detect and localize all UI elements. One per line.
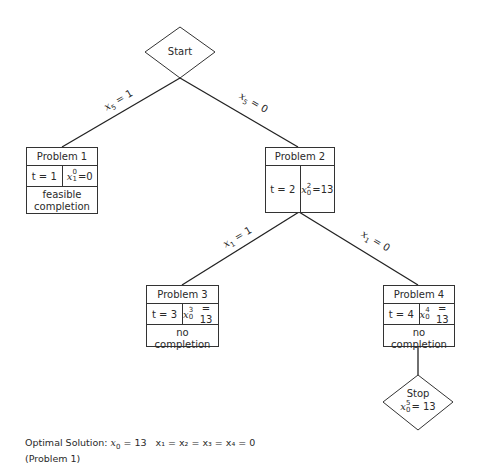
problem-title: Problem 1 — [27, 148, 97, 166]
edge-start-problem2 — [180, 78, 298, 147]
iteration-value: t = 4 — [384, 304, 419, 324]
iteration-value: t = 3 — [147, 304, 182, 324]
completion-status: feasible completion — [27, 187, 97, 213]
start-label: Start — [155, 46, 205, 57]
start-text: Start — [168, 46, 192, 57]
optimal-solution-source: (Problem 1) — [25, 453, 255, 465]
problem-title: Problem 4 — [384, 286, 454, 304]
problem-4-node: Problem 4 t = 4 x40= 13 no completion — [383, 285, 455, 347]
optimal-solution-caption: Optimal Solution: x0 = 13 x₁ = x₂ = x₃ =… — [25, 437, 255, 465]
completion-status: no completion — [384, 325, 454, 351]
objective-value: x40= 13 — [419, 304, 455, 324]
optimal-solution-line: Optimal Solution: x0 = 13 x₁ = x₂ = x₃ =… — [25, 437, 255, 453]
stop-label: Stop x50= 13 — [390, 387, 446, 414]
iteration-value: t = 1 — [27, 166, 62, 186]
stop-text: Stop — [390, 387, 446, 400]
problem-title: Problem 3 — [147, 286, 218, 304]
problem-title: Problem 2 — [266, 148, 334, 166]
problem-3-node: Problem 3 t = 3 x30= 13 no completion — [146, 285, 219, 347]
edge-start-problem1 — [62, 78, 180, 147]
problem-2-node: Problem 2 t = 2 x20=13 — [265, 147, 335, 213]
stop-objective: x50= 13 — [390, 400, 446, 414]
edge-problem2-problem3 — [182, 212, 299, 285]
objective-value: x30= 13 — [182, 304, 218, 324]
problem-1-node: Problem 1 t = 1 x01=0 feasible completio… — [26, 147, 98, 214]
objective-value: x01=0 — [62, 166, 98, 186]
completion-status: no completion — [147, 325, 218, 351]
iteration-value: t = 2 — [266, 166, 300, 213]
objective-value: x20=13 — [300, 166, 335, 213]
edge-problem2-problem4 — [299, 212, 418, 285]
